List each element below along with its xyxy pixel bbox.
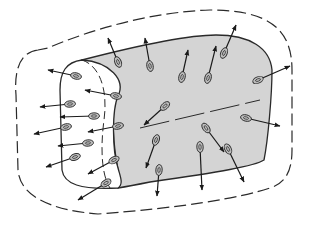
- surface-particle-icon: [197, 141, 204, 152]
- diagram-canvas: [0, 0, 314, 229]
- surface-particle-icon: [88, 113, 99, 120]
- cylinder-emission-diagram: [0, 0, 314, 229]
